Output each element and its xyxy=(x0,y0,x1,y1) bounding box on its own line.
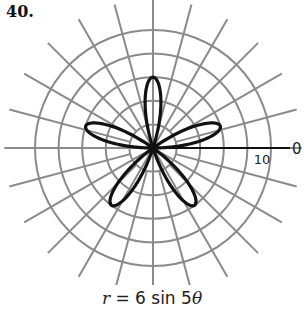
polar-grid xyxy=(4,0,301,285)
radius-ten-label: 10 xyxy=(254,152,271,167)
grid-ray xyxy=(170,43,258,131)
equation-theta: θ xyxy=(192,288,202,308)
grid-ray xyxy=(48,43,136,131)
equation-r: r xyxy=(102,288,110,308)
equation-rhs: = 6 sin 5 xyxy=(110,288,192,308)
polar-plot: 0 10 xyxy=(0,0,304,285)
angle-zero-label: 0 xyxy=(292,140,302,158)
equation-caption: r = 6 sin 5θ xyxy=(0,288,304,308)
